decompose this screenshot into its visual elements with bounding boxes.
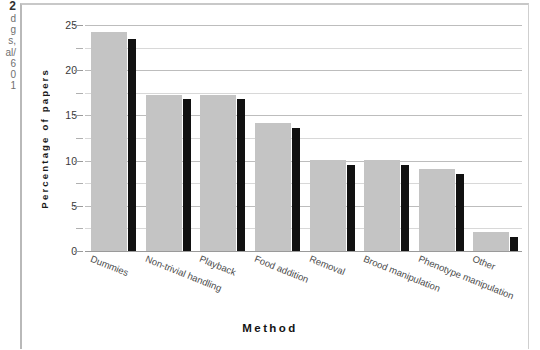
y-tick-minor — [76, 48, 83, 49]
gridline-major — [85, 70, 522, 71]
bar-black[interactable] — [237, 99, 245, 251]
y-tick-major — [74, 25, 83, 26]
bar-black[interactable] — [347, 165, 355, 251]
y-tick-minor — [76, 228, 83, 229]
bar-gray[interactable] — [364, 160, 400, 251]
bar-black[interactable] — [292, 128, 300, 251]
y-tick-major — [74, 115, 83, 116]
bar-black[interactable] — [401, 165, 409, 251]
bar-black[interactable] — [510, 237, 518, 251]
bar-black[interactable] — [456, 174, 464, 251]
plot-area — [85, 25, 522, 251]
x-tick-label: Playback — [198, 253, 238, 278]
y-tick-minor — [76, 183, 83, 184]
bar-gray[interactable] — [473, 232, 509, 251]
y-tick-minor — [76, 93, 83, 94]
x-tick-label: Other — [471, 253, 497, 272]
y-tick-major — [74, 251, 83, 252]
x-tick-label: Removal — [307, 253, 346, 277]
gridline-minor — [85, 48, 522, 49]
x-tick-label: Phenotype manipulation — [417, 253, 516, 301]
y-tick-label: 10 — [47, 155, 77, 167]
y-tick-label: 5 — [47, 200, 77, 212]
bar-black[interactable] — [183, 99, 191, 251]
bar-gray[interactable] — [200, 95, 236, 251]
y-tick-label: 25 — [47, 19, 77, 31]
y-tick-label: 15 — [47, 109, 77, 121]
y-axis-tick-labels: 0510152025 — [47, 25, 77, 251]
bar-black[interactable] — [128, 39, 136, 251]
x-axis-tick-labels: DummiesNon-trivial handlingPlaybackFood … — [85, 253, 522, 315]
y-tick-major — [74, 161, 83, 162]
gridline-major — [85, 25, 522, 26]
y-tick-major — [74, 206, 83, 207]
bar-gray[interactable] — [419, 169, 455, 251]
x-axis-baseline — [85, 251, 522, 252]
y-tick-major — [74, 70, 83, 71]
x-axis-title: Method — [0, 322, 540, 334]
x-tick-label: Dummies — [89, 253, 130, 278]
bar-chart: Percentage of papers 0510152025 DummiesN… — [0, 0, 540, 350]
bar-gray[interactable] — [310, 160, 346, 251]
bar-gray[interactable] — [91, 32, 127, 251]
bar-gray[interactable] — [146, 95, 182, 251]
y-tick-minor — [76, 138, 83, 139]
x-tick-label: Food addition — [253, 253, 311, 285]
bar-gray[interactable] — [255, 123, 291, 251]
y-tick-label: 0 — [47, 245, 77, 257]
y-tick-label: 20 — [47, 64, 77, 76]
